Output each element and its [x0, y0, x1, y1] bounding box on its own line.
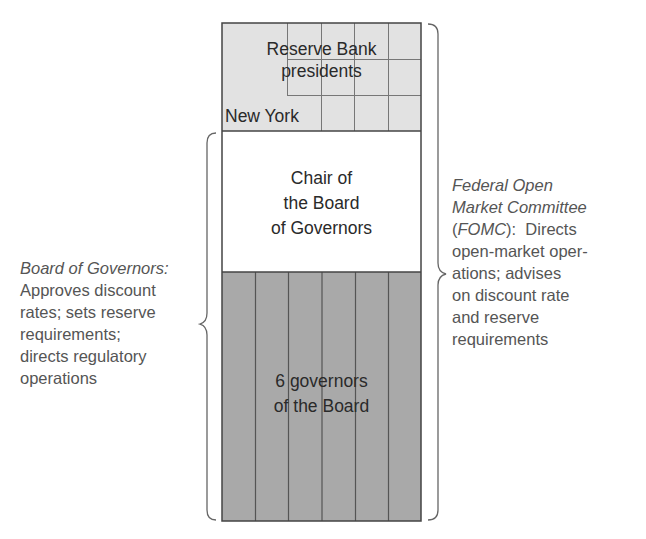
new-york-label: New York — [225, 105, 299, 127]
reserve-bank-line-2: presidents — [222, 60, 421, 82]
fomc-abbrev-rest: ): Directs — [506, 220, 577, 238]
board-duty-line-5: operations — [20, 367, 169, 389]
board-duty-line-4: directs regulatory — [20, 345, 169, 367]
governors-line-2: of the Board — [222, 394, 421, 419]
governors-label: 6 governors of the Board — [222, 369, 421, 419]
fomc-duty-line-5: requirements — [452, 328, 588, 350]
board-of-governors-title: Board of Governors: — [20, 257, 169, 279]
chair-line-1: Chair of — [222, 166, 421, 191]
fomc-duty-line-1: open-market oper- — [452, 240, 588, 262]
reserve-bank-line-1: Reserve Bank — [222, 38, 421, 60]
fomc-title-line-1: Federal Open — [452, 174, 588, 196]
right-brace — [428, 24, 446, 520]
board-duty-line-1: Approves discount — [20, 279, 169, 301]
chair-line-3: of Governors — [222, 216, 421, 241]
reserve-bank-label: Reserve Bank presidents — [222, 38, 421, 82]
fomc-duty-line-3: on discount rate — [452, 284, 588, 306]
fomc-annotation: Federal Open Market Committee (FOMC): Di… — [452, 174, 588, 350]
governors-line-1: 6 governors — [222, 369, 421, 394]
board-of-governors-annotation: Board of Governors: Approves discount ra… — [20, 257, 169, 389]
fomc-duty-line-2: ations; advises — [452, 262, 588, 284]
board-duty-line-3: requirements; — [20, 323, 169, 345]
fomc-title-line-2: Market Committee — [452, 196, 588, 218]
left-brace — [200, 133, 216, 520]
fomc-abbrev-line: (FOMC): Directs — [452, 218, 588, 240]
board-duty-line-2: rates; sets reserve — [20, 301, 169, 323]
chair-label: Chair of the Board of Governors — [222, 166, 421, 241]
chair-line-2: the Board — [222, 191, 421, 216]
fomc-abbrev: FOMC — [458, 220, 507, 238]
fomc-duty-line-4: and reserve — [452, 306, 588, 328]
